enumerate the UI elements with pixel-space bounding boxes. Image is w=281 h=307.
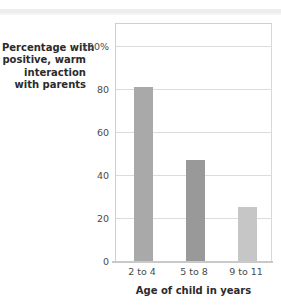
y-tick-label: 20 bbox=[65, 213, 109, 224]
x-axis-line bbox=[112, 261, 273, 263]
y-tick-label: 100% bbox=[65, 41, 109, 52]
gridline bbox=[116, 46, 272, 47]
bar bbox=[186, 160, 205, 261]
plot-area bbox=[116, 46, 272, 261]
bar bbox=[134, 87, 153, 261]
bar bbox=[238, 207, 257, 261]
y-tick-label: 80 bbox=[65, 84, 109, 95]
y-tick-label: 60 bbox=[65, 127, 109, 138]
y-axis-title-line-2: positive, warm bbox=[2, 54, 86, 66]
top-scan-band-secondary bbox=[0, 13, 281, 15]
y-tick-label: 40 bbox=[65, 170, 109, 181]
x-axis-title: Age of child in years bbox=[112, 285, 275, 296]
x-tick-label: 5 to 8 bbox=[167, 266, 221, 277]
x-tick-label: 9 to 11 bbox=[219, 266, 273, 277]
y-axis-title-line-3: interaction bbox=[2, 67, 86, 79]
x-tick-label: 2 to 4 bbox=[115, 266, 169, 277]
y-tick-label: 0 bbox=[65, 256, 109, 267]
bar-chart-figure: Percentage with positive, warm interacti… bbox=[0, 0, 281, 307]
